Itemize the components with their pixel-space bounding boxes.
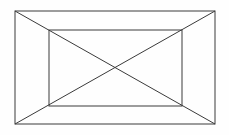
figure-canvas: Nested rectangles with crossing diagonal… xyxy=(0,0,229,135)
line-drawing xyxy=(0,0,229,135)
